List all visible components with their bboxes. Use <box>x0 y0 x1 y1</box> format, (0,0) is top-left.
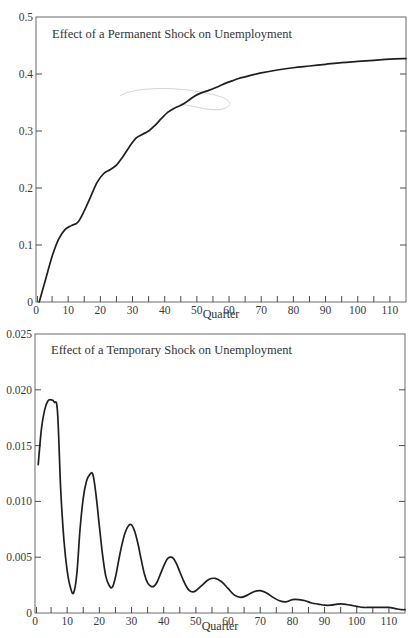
permanent-shock-line <box>39 59 406 302</box>
x-tick-label: 70 <box>255 304 267 316</box>
y-tick-label: 0.1 <box>19 239 34 251</box>
plot-frame <box>36 17 406 302</box>
y-tick-label: 0.025 <box>6 328 32 340</box>
y-axis: 00.10.20.30.40.5 <box>19 11 406 308</box>
x-tick-label: 10 <box>61 615 73 627</box>
x-tick-label: 30 <box>126 615 138 627</box>
x-tick-label: 80 <box>288 304 300 316</box>
figure: Effect of a Permanent Shock on Unemploym… <box>0 0 415 638</box>
y-tick-label: 0.005 <box>6 551 32 563</box>
y-tick-label: 0.010 <box>6 495 32 507</box>
x-tick-label: 40 <box>159 304 171 316</box>
temporary-shock-line <box>38 400 405 610</box>
x-axis-title: Quarter <box>203 307 240 321</box>
x-tick-label: 0 <box>32 615 38 627</box>
x-tick-label: 50 <box>191 304 203 316</box>
x-tick-label: 90 <box>319 615 331 627</box>
x-axis-title: Quarter <box>202 619 239 633</box>
x-tick-label: 90 <box>320 304 332 316</box>
x-tick-label: 80 <box>287 615 299 627</box>
x-tick-label: 30 <box>127 304 139 316</box>
y-tick-label: 0.2 <box>19 182 34 194</box>
pencil-mark <box>120 89 230 110</box>
chart-title: Effect of a Temporary Shock on Unemploym… <box>51 343 292 357</box>
temporary-shock-chart: Effect of a Temporary Shock on Unemploym… <box>6 328 405 633</box>
permanent-shock-chart: Effect of a Permanent Shock on Unemploym… <box>19 11 406 321</box>
x-tick-label: 110 <box>381 304 398 316</box>
y-axis: 00.0050.0100.0150.0200.025 <box>6 328 405 619</box>
x-tick-label: 70 <box>254 615 266 627</box>
y-tick-label: 0.015 <box>6 440 32 452</box>
x-tick-label: 10 <box>62 304 74 316</box>
chart-title: Effect of a Permanent Shock on Unemploym… <box>52 27 293 41</box>
y-tick-label: 0.3 <box>19 125 34 137</box>
x-tick-label: 100 <box>349 304 367 316</box>
x-tick-label: 100 <box>348 615 366 627</box>
y-tick-label: 0.5 <box>19 11 34 23</box>
x-tick-label: 20 <box>94 615 106 627</box>
y-tick-label: 0.020 <box>6 384 32 396</box>
x-tick-label: 0 <box>33 304 39 316</box>
y-tick-label: 0.4 <box>19 68 34 80</box>
x-tick-label: 20 <box>95 304 107 316</box>
x-tick-label: 40 <box>158 615 170 627</box>
x-tick-label: 110 <box>380 615 397 627</box>
x-tick-label: 50 <box>190 615 202 627</box>
